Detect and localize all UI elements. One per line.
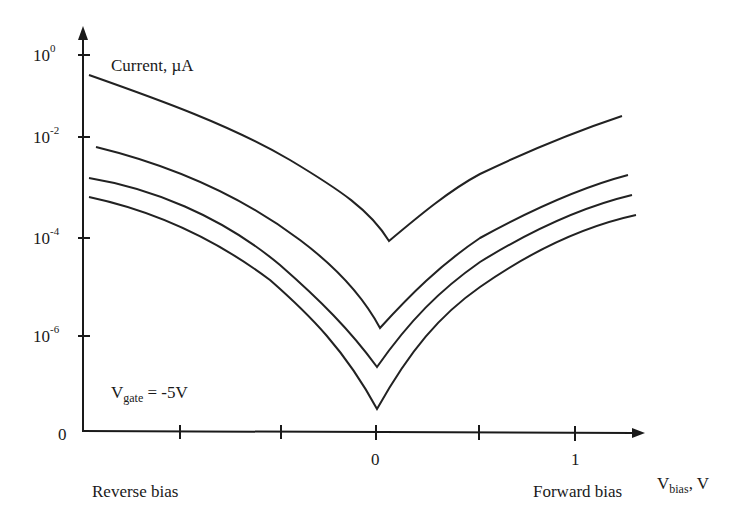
reverse-bias-label: Reverse bias — [92, 483, 178, 500]
x-axis — [82, 431, 634, 433]
curve-3 — [89, 178, 632, 367]
y-tick-label-1: 10-2 — [33, 129, 59, 146]
y-tick-label-0: 100 — [33, 47, 56, 64]
curves — [89, 75, 636, 409]
curve-2 — [96, 147, 628, 328]
x-tick-label-0: 0 — [371, 451, 380, 468]
y-axis-arrow-icon — [78, 26, 88, 40]
y-axis-title: Current, µA — [111, 57, 194, 74]
forward-bias-label: Forward bias — [533, 483, 622, 500]
y-tick-label-3: 10-6 — [33, 328, 59, 345]
gate-voltage-annotation: Vgate = -5V — [111, 384, 188, 401]
x-tick-label-1: 1 — [571, 451, 580, 468]
y-tick-label-4: 0 — [58, 426, 67, 443]
axes — [82, 36, 634, 433]
curve-4 — [89, 197, 636, 409]
y-tick-label-2: 10-4 — [33, 230, 59, 247]
curve-1 — [89, 75, 622, 241]
x-axis-title: Vbias, V — [657, 475, 709, 492]
x-axis-arrow-icon — [632, 428, 645, 438]
